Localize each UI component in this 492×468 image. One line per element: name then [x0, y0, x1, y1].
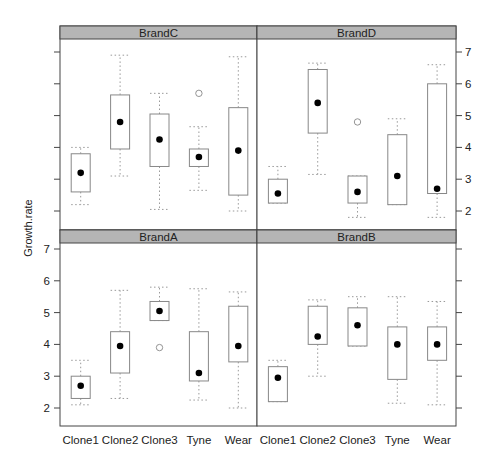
- median-dot: [77, 382, 84, 389]
- strip-label: BrandC: [139, 27, 178, 39]
- svg-text:7: 7: [44, 243, 50, 255]
- svg-text:5: 5: [44, 307, 50, 319]
- strip-label: BrandB: [337, 231, 376, 243]
- strip-label: BrandA: [139, 231, 178, 243]
- svg-text:6: 6: [44, 275, 50, 287]
- svg-text:Clone3: Clone3: [141, 434, 177, 446]
- panel-branda: BrandA: [60, 230, 257, 426]
- median-dot: [235, 147, 242, 154]
- box-clone1: [268, 360, 287, 401]
- median-dot: [77, 170, 84, 177]
- median-dot: [434, 185, 441, 192]
- panel-brandd: BrandD: [257, 26, 456, 230]
- x-axis: Clone1Clone2Clone3TyneWearClone1Clone2Cl…: [62, 434, 450, 446]
- y-axis-left: 234567: [44, 52, 60, 414]
- y-axis-right: 234567: [456, 46, 472, 408]
- median-dot: [354, 189, 361, 196]
- median-dot: [354, 322, 361, 329]
- svg-text:3: 3: [44, 370, 50, 382]
- median-dot: [156, 136, 163, 143]
- median-dot: [235, 343, 242, 350]
- median-dot: [394, 341, 401, 348]
- svg-text:7: 7: [465, 46, 471, 58]
- median-dot: [275, 374, 282, 381]
- panel-brandb: BrandB: [257, 230, 456, 426]
- median-dot: [314, 100, 321, 107]
- svg-text:5: 5: [465, 110, 471, 122]
- svg-text:4: 4: [465, 141, 472, 153]
- strip-label: BrandD: [337, 27, 376, 39]
- svg-text:3: 3: [465, 173, 471, 185]
- svg-text:Clone1: Clone1: [260, 434, 296, 446]
- median-dot: [275, 190, 282, 197]
- median-dot: [434, 341, 441, 348]
- median-dot: [196, 370, 203, 377]
- median-dot: [117, 343, 124, 350]
- svg-text:Clone1: Clone1: [62, 434, 98, 446]
- panel-brandc: BrandC: [60, 26, 257, 230]
- svg-text:Tyne: Tyne: [385, 434, 410, 446]
- svg-text:Clone2: Clone2: [299, 434, 335, 446]
- svg-text:2: 2: [465, 205, 471, 217]
- svg-text:Wear: Wear: [225, 434, 252, 446]
- y-axis-label: Growth.rate: [22, 199, 34, 256]
- median-dot: [394, 173, 401, 180]
- svg-text:Wear: Wear: [423, 434, 450, 446]
- svg-text:2: 2: [44, 402, 50, 414]
- median-dot: [156, 308, 163, 315]
- median-dot: [117, 119, 124, 126]
- median-dot: [196, 154, 203, 161]
- svg-text:Clone2: Clone2: [102, 434, 138, 446]
- svg-text:4: 4: [44, 338, 51, 350]
- lattice-boxplot-chart: BrandCBrandDBrandABrandB234567234567Clon…: [0, 0, 492, 468]
- svg-text:Tyne: Tyne: [186, 434, 211, 446]
- svg-text:Clone3: Clone3: [339, 434, 375, 446]
- median-dot: [314, 333, 321, 340]
- svg-text:6: 6: [465, 78, 471, 90]
